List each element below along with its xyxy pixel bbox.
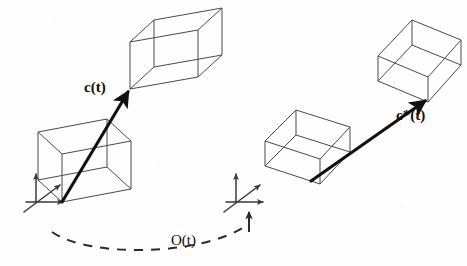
diagram-canvas (0, 0, 467, 266)
left-start-box-front-face (62, 141, 131, 202)
left-start-box-edge-tl (38, 132, 62, 154)
label-mapping-o-of-t: O(t) (171, 233, 196, 248)
left-start-box-back-face (38, 119, 107, 180)
right-start-box-bottom-face (265, 135, 350, 184)
right-coordinate-system (224, 20, 461, 212)
right-axis-z (224, 185, 260, 212)
label-vector-c-star-of-t: c*(t) (396, 108, 425, 123)
left-start-box (38, 119, 131, 202)
left-axis-z (24, 185, 60, 212)
mapping-arc-group (52, 212, 249, 250)
figure-root: c(t) c*(t) O(t) (0, 0, 467, 266)
right-end-box (378, 20, 461, 102)
vector-c-of-t (62, 92, 128, 202)
left-coordinate-system (24, 8, 222, 212)
label-vector-c-of-t: c(t) (84, 80, 106, 95)
left-end-box (130, 8, 222, 89)
right-start-box-top-face (265, 110, 350, 159)
left-start-box-edge-br (107, 167, 131, 189)
right-axes-triad (224, 174, 263, 212)
mapping-arc-o-of-t (52, 226, 246, 250)
right-start-box (265, 110, 350, 184)
left-axes-triad (24, 174, 63, 212)
